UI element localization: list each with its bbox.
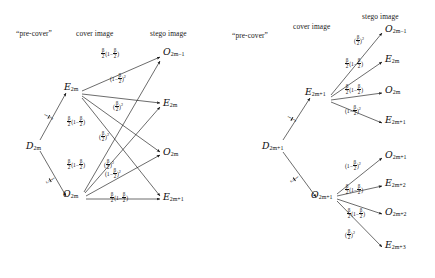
node-stego-right-O2m+2: O2m+2	[385, 206, 406, 217]
node-symbol: O	[311, 189, 319, 200]
node-subscript: 2m	[392, 58, 400, 64]
edge-label-O2m1-E2m3: (β2)2	[345, 229, 355, 240]
node-stego-right-E2m+2: E2m+2	[385, 177, 406, 188]
node-symbol: O	[163, 146, 171, 157]
node-subscript: 2m	[34, 145, 42, 151]
node-subscript: 2m+3	[392, 244, 406, 250]
node-symbol: E	[163, 191, 170, 202]
edge-label-O2m1-O2m2: β2(1−β2)	[347, 208, 365, 219]
node-symbol: O	[385, 149, 393, 160]
node-stego-right-O2m-1: O2m−1	[385, 23, 406, 34]
node-stego-right-E2m+3: E2m+3	[385, 239, 406, 250]
edge-O2m-E2m	[85, 107, 160, 193]
node-symbol: D	[262, 140, 270, 151]
edge-label-E2m1-O2m: β2(1−β2)	[345, 84, 363, 95]
node-cover-O2m: O2m	[63, 188, 78, 199]
node-subscript: 2m+1	[270, 145, 284, 151]
node-subscript: 2m	[71, 193, 79, 199]
edge-label-O2m-O2m: (1−β2)2	[105, 168, 121, 179]
node-stego-left-O2m: O2m	[163, 146, 178, 157]
edge-label-E2m1-O2m-1: (β2)2	[354, 35, 364, 46]
edge-label-E2m-O2m: (β2)2	[113, 101, 123, 112]
node-stego-right-O2m: O2m	[385, 84, 400, 95]
node-subscript: 2m	[170, 102, 178, 108]
header-cover-right: cover image	[293, 22, 330, 31]
edge-label-O2m1-E2m2: β2(1−β2)	[345, 184, 363, 195]
header-precover-right: “pre-cover”	[232, 31, 268, 40]
node-subscript: 2m+1	[319, 194, 333, 200]
node-symbol: O	[63, 188, 71, 199]
node-subscript: 2m+1	[392, 119, 406, 125]
node-subscript: 2m	[71, 86, 79, 92]
node-symbol: E	[385, 239, 392, 250]
node-stego-right-E2m+1: E2m+1	[385, 114, 406, 125]
edge-E2m-E2m1	[82, 98, 160, 196]
node-stego-right-O2m+1: O2m+1	[385, 149, 406, 160]
edge-label-O2m1-O2m1: (1−β2)2	[345, 160, 361, 171]
node-cover-E2m+1: E2m+1	[305, 86, 326, 97]
node-stego-left-O2m-1: O2m−1	[163, 46, 184, 57]
node-subscript: 2m+2	[392, 182, 406, 188]
node-symbol: D	[26, 140, 34, 151]
node-symbol: E	[64, 81, 71, 92]
node-subscript: 2m	[171, 151, 179, 157]
node-symbol: E	[385, 177, 392, 188]
node-symbol: O	[385, 23, 393, 34]
node-precover-D2m+1: D2m+1	[262, 140, 283, 151]
edge-label-E2m-E2m: (1−β2)2	[110, 73, 126, 84]
edge-label-E2m1-E2m1: (1−β2)2	[345, 105, 361, 116]
edge-layer	[0, 0, 435, 278]
edge-label-E2m-O2m-1: β2(1−β2)	[101, 48, 119, 59]
node-subscript: 2m+2	[393, 211, 407, 217]
header-stego-right: stego image	[362, 12, 399, 21]
header-cover-left: cover image	[76, 29, 113, 38]
node-subscript: 2m+1	[393, 154, 407, 160]
edge-label-O2m-E2m+1: β2(1−β2)	[110, 192, 128, 203]
edge-label-E2m-E2m+1: β2(1−β2)	[67, 116, 85, 127]
node-stego-right-E2m: E2m	[385, 53, 399, 64]
node-symbol: E	[305, 86, 312, 97]
node-precover-D2m: D2m	[26, 140, 41, 151]
edge-O2m-O2m	[86, 155, 160, 196]
header-stego-left: stego image	[150, 29, 187, 38]
node-subscript: 2m+1	[170, 196, 184, 202]
node-symbol: E	[163, 97, 170, 108]
node-cover-E2m: E2m	[64, 81, 78, 92]
node-subscript: 2m	[393, 89, 401, 95]
figure-canvas: “pre-cover” cover image stego image “pre…	[0, 0, 435, 278]
edge-label-E2m1-E2m: β2(1−β2)	[345, 58, 363, 69]
node-subscript: 2m+1	[312, 91, 326, 97]
node-symbol: E	[385, 114, 392, 125]
node-symbol: O	[385, 84, 393, 95]
header-precover-left: “pre-cover”	[16, 29, 52, 38]
node-stego-left-E2m: E2m	[163, 97, 177, 108]
node-cover-O2m+1: O2m+1	[311, 189, 332, 200]
node-stego-left-E2m+1: E2m+1	[163, 191, 184, 202]
node-subscript: 2m−1	[393, 28, 407, 34]
node-subscript: 2m−1	[171, 51, 185, 57]
node-symbol: O	[163, 46, 171, 57]
node-symbol: E	[385, 53, 392, 64]
node-symbol: O	[385, 206, 393, 217]
edge-label-O2m-E2m: (β2)2	[99, 131, 109, 142]
edge-label-O2m-O2m-1: β2(1−β2)	[67, 159, 85, 170]
